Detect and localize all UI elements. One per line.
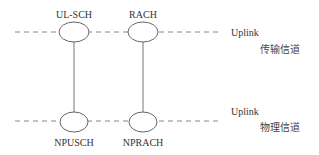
physical-layer-label: 物理信道 (260, 121, 300, 133)
npusch-label: NPUSCH (54, 137, 93, 148)
physical-direction-label: Uplink (231, 106, 259, 117)
ulsch-node (59, 22, 89, 42)
rach-label: RACH (129, 9, 157, 20)
nprach-label: NPRACH (123, 137, 164, 148)
npusch-node (60, 112, 88, 132)
rach-node (128, 22, 158, 42)
ulsch-label: UL-SCH (56, 9, 92, 20)
channel-mapping-diagram: UL-SCH RACH NPUSCH NPRACH Uplink 传输信道 Up… (0, 0, 319, 155)
transport-direction-label: Uplink (231, 27, 259, 38)
transport-layer-label: 传输信道 (260, 43, 300, 55)
nprach-node (129, 112, 157, 132)
